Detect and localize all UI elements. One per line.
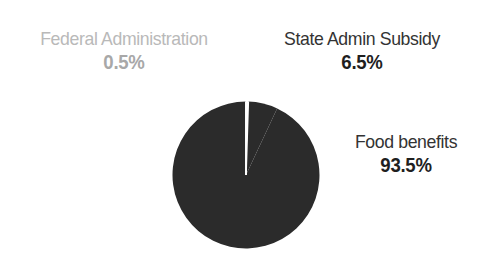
pie-label-federal-administration-name: Federal Administration (16, 28, 232, 49)
pie-label-state-admin-subsidy-name: State Admin Subsidy (252, 28, 471, 49)
pie-label-federal-administration: Federal Administration 0.5% (8, 28, 240, 74)
pie-label-state-admin-subsidy: State Admin Subsidy 6.5% (244, 28, 480, 74)
pie-label-food-benefits-value: 93.5% (335, 154, 476, 176)
pie-label-federal-administration-value: 0.5% (16, 51, 232, 73)
pie-label-food-benefits-name: Food benefits (335, 131, 476, 152)
pie-label-state-admin-subsidy-value: 6.5% (252, 51, 471, 73)
pie-label-food-benefits: Food benefits 93.5% (330, 131, 482, 177)
pie-chart-figure: Federal Administration 0.5% State Admin … (0, 0, 484, 274)
